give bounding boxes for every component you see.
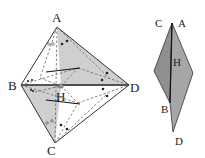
label-C-right: C — [155, 17, 162, 29]
label-A-right: A — [178, 17, 186, 29]
label-B: B — [8, 78, 17, 93]
folded-face-left — [154, 23, 172, 103]
right-figure: C A H B D — [154, 17, 193, 147]
shaded-face-lower — [21, 85, 61, 143]
folded-face-right — [170, 23, 193, 132]
label-A: A — [52, 10, 62, 25]
label-C: C — [47, 143, 56, 158]
label-H: H — [56, 89, 65, 104]
diagram-svg: A B C D H C A H B D — [0, 0, 205, 158]
left-figure: A B C D H — [8, 10, 139, 158]
tetrahedron-diagram: A B C D H C A H B D — [0, 0, 205, 158]
label-D: D — [130, 80, 139, 95]
point-H-marker — [59, 84, 63, 88]
label-H-right: H — [173, 56, 181, 68]
label-B-right: B — [161, 103, 168, 115]
label-D-right: D — [175, 135, 183, 147]
